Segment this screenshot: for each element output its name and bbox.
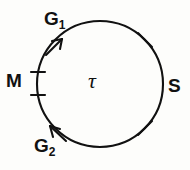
phase-label-g1: G1 (44, 9, 65, 28)
cell-cycle-figure: G1 G2 M S τ (0, 0, 190, 170)
phase-label-g1-subscript: 1 (59, 18, 66, 32)
phase-label-g2: G2 (34, 136, 55, 155)
phase-label-g1-base: G (44, 8, 59, 29)
tick-s-upper (138, 33, 152, 47)
phase-label-s: S (168, 76, 181, 95)
cycle-period-symbol: τ (88, 70, 96, 92)
phase-label-g2-base: G (34, 135, 49, 156)
phase-label-g2-subscript: 2 (49, 145, 56, 159)
tick-s-lower (138, 121, 152, 135)
phase-label-m: M (6, 71, 22, 90)
